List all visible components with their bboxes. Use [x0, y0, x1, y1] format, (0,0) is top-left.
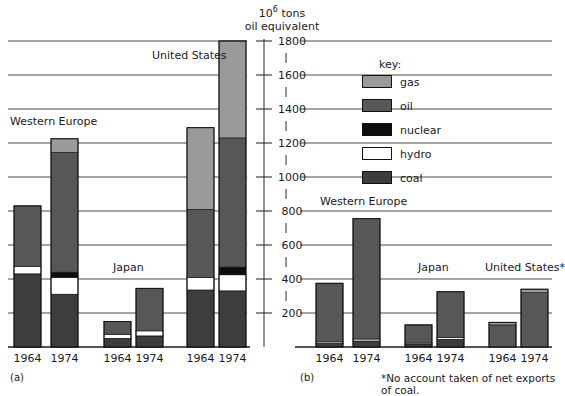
footnote: *No account taken of net exports of coal…	[381, 372, 558, 396]
bar-segment-hydro	[187, 277, 214, 290]
region-label-a-0: Western Europe	[10, 116, 97, 127]
x-axis-year-label-a: 1974	[45, 352, 85, 365]
bar-segment-hydro	[219, 275, 246, 291]
bar-segment-gas	[187, 128, 214, 210]
legend-label-oil: oil	[400, 100, 413, 113]
bar-segment-oil	[136, 288, 163, 331]
y-axis-tick-label: 1200	[272, 137, 312, 150]
y-axis-tick-label: 1600	[272, 69, 312, 82]
y-axis-tick-label: 1000	[272, 171, 312, 184]
y-axis-tick-label: 200	[272, 307, 312, 320]
x-axis-year-label-b: 1974	[347, 352, 387, 365]
panel-letter-b: (b)	[300, 372, 314, 383]
bar-segment-oil	[219, 138, 246, 267]
x-axis-year-label-b: 1974	[431, 352, 471, 365]
x-axis-year-label-a: 1974	[213, 352, 253, 365]
bar-segment-hydro	[353, 339, 380, 341]
legend-swatch-nuclear	[362, 123, 392, 136]
bar-segment-coal	[437, 339, 464, 347]
y-axis-tick-label: 800	[272, 205, 312, 218]
x-axis-year-label-a: 1964	[8, 352, 48, 365]
bar-segment-hydro	[14, 266, 41, 274]
bar-segment-hydro	[136, 331, 163, 336]
bar-segment-coal	[316, 344, 343, 347]
panel-letter-a: (a)	[10, 372, 24, 383]
y-axis-tick-label: 600	[272, 239, 312, 252]
bar-segment-oil	[316, 283, 343, 342]
bar-segment-coal	[353, 341, 380, 347]
legend-label-gas: gas	[400, 76, 419, 89]
bar-segment-hydro	[437, 337, 464, 339]
region-label-b-2: United States*	[485, 262, 565, 273]
y-axis-tick-label: 1800	[272, 35, 312, 48]
legend-item-gas: gas	[362, 75, 452, 89]
x-axis-year-label-b: 1974	[515, 352, 555, 365]
region-label-b-0: Western Europe	[320, 196, 407, 207]
bar-segment-gas	[51, 139, 78, 153]
legend-label-hydro: hydro	[400, 148, 431, 161]
bar-segment-hydro	[104, 334, 131, 338]
region-label-b-1: Japan	[418, 262, 449, 273]
legend-item-nuclear: nuclear	[362, 123, 452, 137]
bar-segment-nuclear	[219, 267, 246, 275]
bar-segment-coal	[51, 294, 78, 347]
bar-segment-oil	[14, 206, 41, 266]
y-axis-tick-label: 400	[272, 273, 312, 286]
bar-segment-oil	[489, 325, 516, 347]
legend-label-nuclear: nuclear	[400, 124, 441, 137]
region-label-a-1: Japan	[113, 262, 144, 273]
x-axis-year-label-b: 1964	[310, 352, 350, 365]
bar-segment-oil	[405, 325, 432, 343]
bar-segment-gas	[521, 289, 548, 292]
axis-unit-caption: 106 tons oil equivalent	[232, 6, 332, 32]
bar-segment-nuclear	[51, 272, 78, 277]
bar-segment-coal	[14, 274, 41, 347]
bar-segment-oil	[187, 209, 214, 277]
legend-swatch-coal	[362, 171, 392, 184]
axis-unit-line1: 106 tons	[259, 7, 305, 20]
legend-item-hydro: hydro	[362, 147, 452, 161]
legend-swatch-oil	[362, 99, 392, 112]
legend-swatch-gas	[362, 75, 392, 88]
bar-segment-oil	[104, 322, 131, 335]
bar-segment-coal	[136, 336, 163, 347]
bar-segment-hydro	[51, 277, 78, 294]
legend-swatch-hydro	[362, 147, 392, 160]
y-axis-tick-label: 1400	[272, 103, 312, 116]
bar-segment-oil	[521, 293, 548, 347]
bar-segment-oil	[437, 292, 464, 338]
x-axis-year-label-a: 1974	[130, 352, 170, 365]
bar-segment-coal	[104, 339, 131, 348]
legend-item-oil: oil	[362, 99, 452, 113]
key-title: key:	[379, 58, 401, 71]
axis-unit-line2: oil equivalent	[245, 20, 319, 33]
bar-segment-oil	[51, 152, 78, 272]
bar-segment-coal	[219, 291, 246, 347]
bar-segment-coal	[187, 290, 214, 347]
region-label-a-2: United States	[152, 50, 227, 61]
legend-label-coal: coal	[400, 172, 423, 185]
bar-segment-oil	[353, 219, 380, 339]
legend-item-coal: coal	[362, 171, 452, 185]
